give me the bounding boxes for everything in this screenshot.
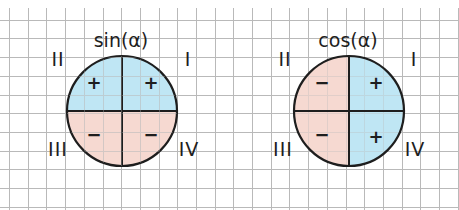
sin-quadrant-label-I: I xyxy=(185,50,192,69)
sin-sign-IV: − xyxy=(143,126,158,144)
cos-sign-IV: + xyxy=(368,128,383,146)
cos-quadrant-label-II: II xyxy=(278,50,291,69)
sin-quadrant-label-III: III xyxy=(48,140,68,159)
cos-sign-I: + xyxy=(368,74,383,92)
sin-quadrant-label-II: II xyxy=(51,50,64,69)
diagram-canvas xyxy=(0,0,459,210)
cos-title: cos(α) xyxy=(318,31,377,50)
cos-sign-III: − xyxy=(314,126,329,144)
cos-quadrant-label-I: I xyxy=(411,50,418,69)
sin-quadrant-label-IV: IV xyxy=(179,140,200,159)
sin-sign-III: − xyxy=(86,126,101,144)
sin-sign-II: + xyxy=(86,74,101,92)
sin-sign-I: + xyxy=(143,74,158,92)
sin-title: sin(α) xyxy=(94,31,149,50)
cos-quadrant-label-III: III xyxy=(273,140,293,159)
cos-quadrant-label-IV: IV xyxy=(405,140,426,159)
cos-sign-II: − xyxy=(314,74,329,92)
